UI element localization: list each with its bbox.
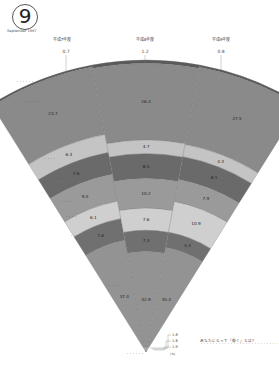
segment-value: 7.6: [73, 171, 80, 176]
row-label-6: ・・・・: [65, 215, 77, 219]
segment-value: 4.3: [217, 159, 224, 164]
bottom-value-caption: (%): [170, 352, 175, 356]
segment-value: 7.6: [97, 233, 104, 238]
bottom-value-h8: 1.6: [172, 339, 178, 343]
segment-value: 27.5: [232, 116, 242, 121]
row-label-3: ・・・・: [44, 157, 56, 161]
row-label-1: ・・・・・・: [16, 80, 34, 84]
bottom-value-h7: 1.8: [172, 333, 178, 337]
leader-line: [154, 347, 171, 350]
segment-value: 23.7: [48, 111, 58, 116]
segment-value: 10.9: [191, 221, 201, 226]
segment-value: 5.4: [184, 243, 191, 248]
fan-chart: 23.76.37.69.56.17.637.426.34.78.510.27.6…: [0, 0, 279, 378]
segment-value: 37.4: [120, 294, 130, 299]
bottom-value-h9: 1.9: [172, 345, 178, 349]
segment-value: 32.9: [141, 297, 151, 302]
segment-value: 6.3: [65, 152, 72, 157]
segment-value: 9.5: [82, 194, 89, 199]
segment-value: 8.1: [211, 175, 218, 180]
segment-value: 7.9: [202, 196, 209, 201]
segment-value: 7.3: [143, 238, 150, 243]
segment-value: 4.7: [143, 144, 150, 149]
segment-value: 10.2: [141, 191, 151, 196]
segment-value: 8.5: [143, 164, 150, 169]
row-label-7: ・・・・: [70, 234, 82, 238]
segment-value: 35.3: [162, 297, 172, 302]
segment-value: 6.1: [90, 215, 97, 220]
row-label-8: ・・・・: [108, 284, 120, 288]
segment-value: 7.6: [143, 217, 150, 222]
row-label-5: ・・・・: [60, 200, 72, 204]
row-label-2: ・・・・・: [25, 100, 40, 104]
note-body: ・・・・・・・・・・・・・・・・・・・・・・・・・・・・・・・・・・・・・・・・…: [200, 343, 266, 346]
row-label-9: ・・・・・・: [126, 352, 144, 356]
row-label-4: ・・・・: [52, 177, 64, 181]
segment-value: 26.3: [141, 99, 151, 104]
